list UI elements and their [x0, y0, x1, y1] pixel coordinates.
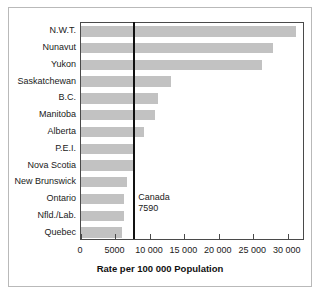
- x-axis-title: Rate per 100 000 Population: [9, 263, 311, 274]
- bar-nfld-lab: [81, 211, 124, 221]
- category-label: New Brunswick: [14, 176, 76, 186]
- x-tick-label: 15 000: [170, 245, 198, 255]
- bar-new-brunswick: [81, 177, 127, 187]
- category-label: P.E.I.: [55, 143, 76, 153]
- category-label: Saskatchewan: [17, 76, 76, 86]
- x-tick: [184, 234, 185, 239]
- bar-row: [81, 76, 303, 86]
- x-tick: [219, 234, 220, 239]
- category-label: Nova Scotia: [27, 160, 76, 170]
- x-tick-label: 10 000: [135, 245, 163, 255]
- bar-row: [81, 227, 303, 237]
- bar-yukon: [81, 60, 262, 70]
- bar-row: [81, 194, 303, 204]
- x-tick: [150, 234, 151, 239]
- plot-area: Canada 7590: [80, 22, 304, 240]
- category-label: N.W.T.: [50, 25, 77, 35]
- bar-row: [81, 160, 303, 170]
- category-label: Yukon: [51, 59, 76, 69]
- figure-frame: Canada 7590 N.W.T.NunavutYukonSaskatchew…: [8, 7, 312, 287]
- x-tick: [288, 234, 289, 239]
- bar-nunavut: [81, 43, 273, 53]
- bar-row: [81, 43, 303, 53]
- bar-p-e-i: [81, 144, 135, 154]
- reference-label-name: Canada: [138, 192, 170, 203]
- category-label: Nfld./Lab.: [37, 210, 76, 220]
- bar-series: [81, 23, 303, 239]
- bar-ontario: [81, 194, 124, 204]
- category-label: Quebec: [44, 227, 76, 237]
- bar-n-w-t: [81, 26, 296, 36]
- x-tick-label: 20 000: [204, 245, 232, 255]
- x-tick-label: 25 000: [239, 245, 267, 255]
- category-label: B.C.: [58, 92, 76, 102]
- x-tick: [81, 234, 82, 239]
- category-label: Manitoba: [39, 109, 76, 119]
- bar-row: [81, 127, 303, 137]
- x-tick-label: 30 000: [273, 245, 301, 255]
- bar-row: [81, 177, 303, 187]
- bar-saskatchewan: [81, 76, 171, 86]
- bar-nova-scotia: [81, 160, 135, 170]
- bar-manitoba: [81, 110, 155, 120]
- canada-reference-line: [133, 22, 135, 239]
- bar-row: [81, 93, 303, 103]
- canada-reference-label: Canada 7590: [138, 192, 170, 214]
- bar-row: [81, 211, 303, 221]
- category-label: Alberta: [47, 126, 76, 136]
- category-label: Ontario: [46, 193, 76, 203]
- reference-label-value: 7590: [138, 203, 170, 214]
- bar-row: [81, 110, 303, 120]
- bar-b-c: [81, 93, 158, 103]
- bar-row: [81, 60, 303, 70]
- x-tick: [115, 234, 116, 239]
- category-label: Nunavut: [42, 42, 76, 52]
- x-tick: [253, 234, 254, 239]
- x-tick-label: 5000: [104, 245, 124, 255]
- x-tick-label: 0: [77, 245, 82, 255]
- bar-row: [81, 144, 303, 154]
- bar-row: [81, 26, 303, 36]
